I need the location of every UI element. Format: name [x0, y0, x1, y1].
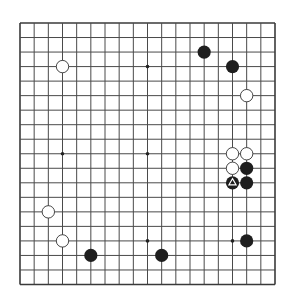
- white-stone-disc: [42, 206, 54, 218]
- white-stone-disc: [240, 89, 252, 101]
- black-stone[interactable]: [84, 249, 97, 262]
- black-stone-disc: [84, 249, 97, 262]
- star-point: [146, 65, 150, 69]
- black-stone[interactable]: [240, 234, 253, 247]
- white-stone[interactable]: [240, 89, 252, 101]
- white-stone-disc: [56, 60, 68, 72]
- black-stone[interactable]: [198, 45, 211, 58]
- black-stone[interactable]: [155, 249, 168, 262]
- star-point: [146, 239, 150, 243]
- black-stone[interactable]: [226, 60, 239, 73]
- white-stone-disc: [226, 162, 238, 174]
- black-stone[interactable]: [240, 176, 253, 189]
- white-stone[interactable]: [226, 162, 238, 174]
- go-board[interactable]: [0, 0, 288, 301]
- white-stone[interactable]: [240, 148, 252, 160]
- star-point: [231, 239, 235, 243]
- white-stone-disc: [240, 148, 252, 160]
- white-stone-disc: [56, 235, 68, 247]
- black-stone[interactable]: [240, 162, 253, 175]
- black-stone-disc: [226, 60, 239, 73]
- white-stone[interactable]: [56, 60, 68, 72]
- black-stone-disc: [155, 249, 168, 262]
- black-stone-disc: [198, 45, 211, 58]
- black-stone-disc: [240, 234, 253, 247]
- star-point: [61, 152, 65, 156]
- star-point: [146, 152, 150, 156]
- white-stone[interactable]: [42, 206, 54, 218]
- black-stone-disc: [240, 162, 253, 175]
- black-stone-disc: [240, 176, 253, 189]
- white-stone-disc: [226, 148, 238, 160]
- white-stone[interactable]: [226, 148, 238, 160]
- white-stone[interactable]: [56, 235, 68, 247]
- black-stone[interactable]: [226, 176, 239, 189]
